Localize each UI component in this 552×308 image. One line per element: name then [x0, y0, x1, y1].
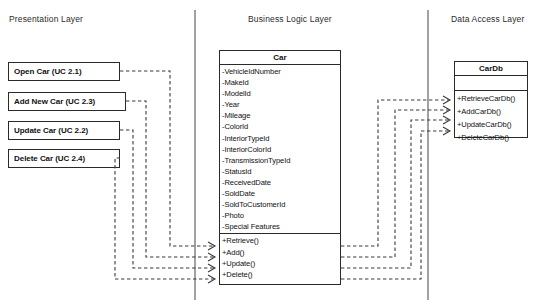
arrowhead-add-to-addcardb	[443, 106, 450, 114]
class-attribute: -InteriorColorId	[222, 144, 340, 155]
class-operations-cardb: +RetrieveCarDb() +AddCarDb() +UpdateCarD…	[455, 91, 527, 145]
class-attribute: -SoldToCustomerId	[222, 199, 340, 210]
class-attribute: -Mileage	[222, 110, 340, 121]
dependency-update-to-updatecardb	[341, 120, 449, 268]
class-attribute: -SoldDate	[222, 188, 340, 199]
dependency-addnew-to-add	[126, 101, 214, 257]
dependency-delete-to-delete	[115, 158, 214, 279]
usecase-open-car[interactable]: Open Car (UC 2.1)	[8, 62, 120, 81]
class-attribute: -ReceivedDate	[222, 177, 340, 188]
usecase-delete-car[interactable]: Delete Car (UC 2.4)	[8, 149, 120, 168]
class-attribute: -Special Features	[222, 221, 340, 232]
arrowhead-delete-to-delete	[208, 275, 215, 283]
usecase-add-new-car[interactable]: Add New Car (UC 2.3)	[8, 92, 126, 111]
layer-title-data-access: Data Access Layer	[451, 14, 524, 24]
class-name-car: Car	[220, 51, 340, 65]
class-operation: +UpdateCarDb()	[457, 118, 527, 131]
class-attribute: -ColorId	[222, 121, 340, 132]
usecase-update-car[interactable]: Update Car (UC 2.2)	[8, 121, 120, 140]
usecase-delete-car-label: Delete Car (UC 2.4)	[14, 154, 85, 163]
arrowhead-update-to-update	[208, 264, 215, 272]
dependency-add-to-addcardb	[341, 110, 449, 257]
class-attribute: -VehicleIdNumber	[222, 66, 340, 77]
class-attribute: -InteriorTypeId	[222, 133, 340, 144]
class-box-cardb[interactable]: CarDb +RetrieveCarDb() +AddCarDb() +Upda…	[454, 61, 528, 138]
class-operation: +AddCarDb()	[457, 105, 527, 118]
arrowhead-delete-to-deletecardb	[443, 127, 450, 135]
class-attribute: -ModelId	[222, 88, 340, 99]
arrowhead-addnew-to-add	[208, 253, 215, 261]
layer-title-presentation: Presentation Layer	[9, 14, 83, 24]
class-operation: +Update()	[222, 258, 340, 269]
dependency-delete-to-deletecardb	[341, 131, 449, 279]
arrowhead-update-to-updatecardb	[443, 116, 450, 124]
class-operation: +RetrieveCarDb()	[457, 92, 527, 105]
class-operations-car: +Retrieve() +Add() +Update() +Delete()	[220, 234, 340, 280]
class-operation: +Retrieve()	[222, 235, 340, 246]
usecase-update-car-label: Update Car (UC 2.2)	[14, 126, 88, 135]
class-name-cardb: CarDb	[455, 62, 527, 76]
class-attribute: -Year	[222, 99, 340, 110]
class-box-car[interactable]: Car -VehicleIdNumber -MakeId -ModelId -Y…	[219, 50, 341, 285]
class-attributes-cardb	[455, 76, 527, 91]
arrowhead-retrieve-to-retrievecardb	[443, 96, 450, 104]
arrowhead-open-to-retrieve	[208, 242, 215, 250]
class-attribute: -StatusId	[222, 166, 340, 177]
class-attributes-car: -VehicleIdNumber -MakeId -ModelId -Year …	[220, 65, 340, 234]
usecase-open-car-label: Open Car (UC 2.1)	[14, 67, 82, 76]
dependency-retrieve-to-retrievecardb	[341, 100, 449, 246]
dependency-update-to-update	[120, 130, 214, 268]
class-operation: +Delete()	[222, 269, 340, 280]
class-attribute: -MakeId	[222, 77, 340, 88]
layer-title-business: Business Logic Layer	[248, 14, 332, 24]
dependency-open-to-retrieve	[120, 71, 214, 246]
architecture-diagram: Presentation Layer Business Logic Layer …	[0, 0, 552, 308]
class-attribute: -Photo	[222, 210, 340, 221]
class-operation: +Add()	[222, 247, 340, 258]
class-operation: +DeleteCarDb()	[457, 131, 527, 144]
class-attribute: -TransmissionTypeId	[222, 155, 340, 166]
usecase-add-new-car-label: Add New Car (UC 2.3)	[14, 97, 95, 106]
